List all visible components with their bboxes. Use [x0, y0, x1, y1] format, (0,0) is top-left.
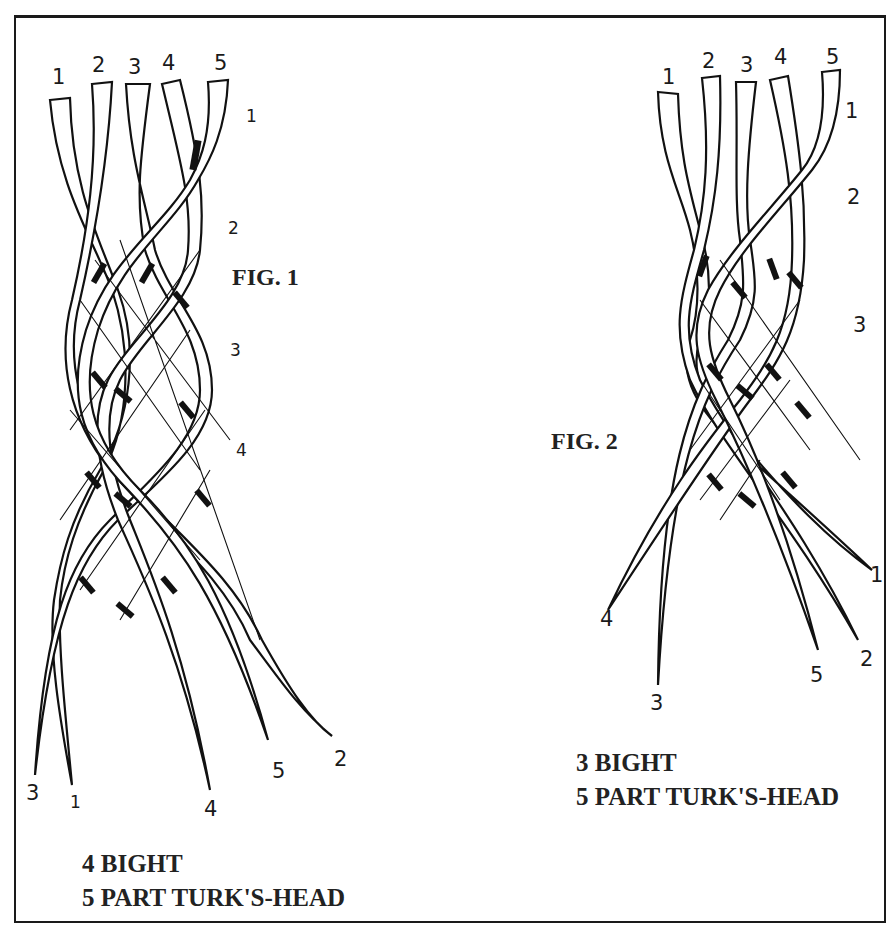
fig1-end-label: 5: [272, 759, 285, 783]
fig1-pass-label: 1: [246, 106, 257, 126]
fig2-top-label: 2: [702, 49, 715, 73]
fig2-end-label: 3: [650, 691, 663, 715]
fig2-end-label: 1: [870, 563, 883, 587]
fig1-end-label: 2: [334, 747, 347, 771]
fig1-braid: [35, 80, 332, 790]
fig1-pass-label: 4: [236, 440, 247, 460]
fig2-braid: [608, 70, 872, 685]
fig1-top-label: 2: [92, 53, 105, 77]
fig2-pass-label: 2: [847, 185, 860, 209]
fig2-top-label: 5: [826, 45, 839, 69]
fig2-top-label: 3: [740, 53, 753, 77]
fig2-caption-type: 5 PART TURK'S-HEAD: [576, 780, 839, 814]
fig2-pass-label: 1: [845, 99, 858, 123]
fig2-top-label: 4: [774, 45, 787, 69]
fig1-top-label: 4: [162, 51, 175, 75]
fig1-caption-type: 5 PART TURK'S-HEAD: [82, 881, 345, 915]
fig1-end-label: 4: [204, 797, 217, 821]
fig1-title: FIG. 1: [232, 264, 299, 291]
fig1-pass-label: 3: [230, 340, 241, 360]
fig1-top-label: 1: [52, 65, 65, 89]
fig2-pass-label: 3: [853, 313, 866, 337]
fig1-pass-label: 2: [228, 218, 239, 238]
fig2-top-label: 1: [662, 65, 675, 89]
fig2-caption-bight: 3 BIGHT: [576, 746, 839, 780]
fig2-end-label: 2: [860, 647, 873, 671]
fig1-top-label: 5: [214, 51, 227, 75]
fig2-title: FIG. 2: [551, 428, 618, 455]
fig2-caption: 3 BIGHT 5 PART TURK'S-HEAD: [576, 746, 839, 814]
fig1-end-label: 3: [26, 781, 39, 805]
fig1-top-label: 3: [128, 55, 141, 79]
fig2-end-label: 4: [600, 607, 613, 631]
fig1-end-label: 1: [70, 792, 81, 812]
fig2-end-label: 5: [810, 663, 823, 687]
fig1-caption-bight: 4 BIGHT: [82, 847, 345, 881]
fig1-caption: 4 BIGHT 5 PART TURK'S-HEAD: [82, 847, 345, 915]
